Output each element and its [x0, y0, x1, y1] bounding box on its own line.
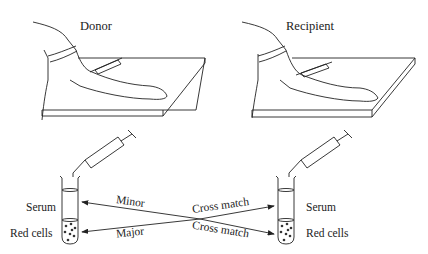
right-red-cells-label: Red cells: [306, 228, 348, 240]
red-cell-dots: [64, 223, 293, 242]
right-serum-label: Serum: [306, 202, 336, 214]
recipient-table: [252, 58, 415, 117]
left-serum-label: Serum: [26, 202, 56, 214]
donor-table: [42, 58, 205, 116]
donor-arm: [33, 22, 167, 120]
donor-title: Donor: [80, 20, 112, 33]
crossmatch-diagram: [0, 0, 428, 254]
left-syringe: [73, 130, 136, 177]
donor-arm-syringe: [90, 58, 122, 74]
right-syringe: [289, 130, 352, 177]
recipient-title: Recipient: [286, 20, 334, 33]
left-red-cells-label: Red cells: [10, 228, 52, 240]
